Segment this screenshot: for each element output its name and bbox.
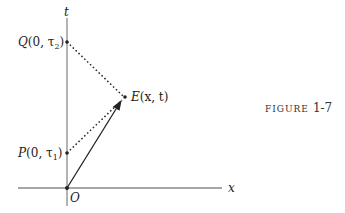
label-p: P(0, τ1) (17, 146, 62, 162)
q-to-e-dotted-line (67, 42, 124, 97)
point-p (65, 151, 69, 155)
x-axis-label: x (228, 181, 235, 195)
label-e: E(x, t) (130, 90, 168, 104)
label-o: O (70, 191, 80, 205)
figure-caption: FIGURE1-7 (265, 101, 332, 115)
p-to-e-dotted-line (67, 100, 122, 153)
label-q: Q(0, τ2) (18, 35, 64, 51)
point-q (65, 40, 69, 44)
spacetime-diagram: t x Q(0, τ2) P(0, τ1) E(x, t) O FIGURE1-… (0, 0, 345, 213)
o-to-e-arrow (67, 101, 121, 188)
point-e (123, 95, 127, 99)
point-o (65, 186, 69, 190)
t-axis-label: t (64, 5, 69, 19)
